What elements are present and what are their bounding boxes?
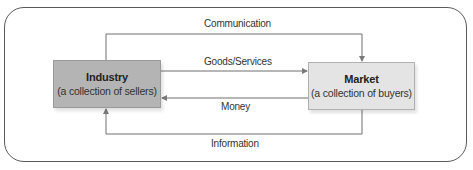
communication-label: Communication bbox=[204, 18, 271, 29]
money-label: Money bbox=[221, 101, 250, 112]
industry-title: Industry bbox=[86, 70, 128, 84]
goods-services-label: Goods/Services bbox=[204, 56, 272, 67]
information-arrow bbox=[106, 109, 362, 134]
market-title: Market bbox=[344, 72, 378, 86]
market-subtitle: (a collection of buyers) bbox=[311, 86, 412, 100]
market-node: Market (a collection of buyers) bbox=[308, 62, 415, 110]
information-label: Information bbox=[211, 138, 259, 149]
industry-subtitle: (a collection of sellers) bbox=[57, 84, 156, 98]
industry-node: Industry (a collection of sellers) bbox=[53, 60, 161, 108]
